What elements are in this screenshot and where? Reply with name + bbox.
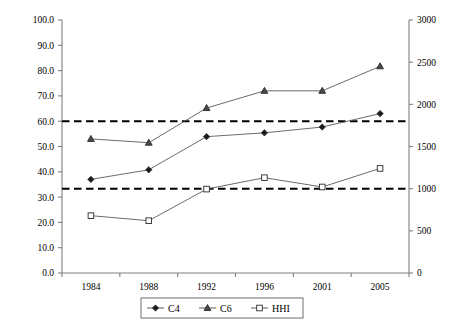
right-axis-tick-label: 2000 (417, 100, 436, 110)
left-axis-tick-label: 60.0 (37, 117, 54, 127)
chart-legend[interactable]: C4C6HHI (141, 298, 303, 318)
left-axis-tick-label: 100.0 (33, 15, 55, 25)
series-c6-point-triangle-marker (319, 87, 326, 93)
left-axis-tick-label: 0.0 (42, 268, 54, 278)
right-axis-tick-label: 1000 (417, 184, 436, 194)
chart-container: 0.010.020.030.040.050.060.070.080.090.01… (0, 0, 455, 328)
legend-label-hhi: HHI (272, 303, 290, 314)
category-axis-label: 1992 (197, 282, 216, 292)
category-axis-label: 2005 (371, 282, 390, 292)
left-value-axis: 0.010.020.030.040.050.060.070.080.090.01… (33, 15, 62, 278)
series-c4-point-diamond-marker (319, 124, 325, 130)
legend-hhi-square-marker (257, 305, 263, 311)
left-axis-tick-label: 80.0 (37, 66, 54, 76)
series-line-c4 (91, 114, 380, 180)
series-c6-point-triangle-marker (261, 87, 268, 93)
data-series-group (88, 63, 384, 224)
series-c4-point-diamond-marker (261, 130, 267, 136)
series-c4-point-diamond-marker (377, 111, 383, 117)
left-axis-tick-label: 70.0 (37, 91, 54, 101)
concentration-line-chart: 0.010.020.030.040.050.060.070.080.090.01… (0, 0, 455, 328)
right-axis-tick-label: 500 (417, 226, 432, 236)
series-hhi-point-square-marker (146, 218, 152, 224)
left-axis-tick-label: 40.0 (37, 167, 54, 177)
series-hhi-point-square-marker (204, 186, 210, 192)
right-axis-tick-label: 0 (417, 268, 422, 278)
series-hhi-point-square-marker (377, 166, 383, 172)
left-axis-tick-label: 30.0 (37, 193, 54, 203)
right-axis-tick-label: 1500 (417, 142, 436, 152)
left-axis-tick-label: 20.0 (37, 218, 54, 228)
right-axis-tick-label: 3000 (417, 15, 436, 25)
series-hhi-point-square-marker (88, 213, 94, 219)
series-c4-point-diamond-marker (203, 134, 209, 140)
reference-lines (62, 121, 409, 189)
series-line-c6 (91, 66, 380, 142)
series-line-hhi (91, 168, 380, 220)
series-c4-point-diamond-marker (88, 176, 94, 182)
left-axis-tick-label: 50.0 (37, 142, 54, 152)
legend-label-c6: C6 (220, 303, 232, 314)
category-axis-label: 2001 (313, 282, 332, 292)
series-c4-point-diamond-marker (146, 167, 152, 173)
series-c6-point-triangle-marker (377, 63, 384, 69)
series-c6-point-triangle-marker (88, 135, 95, 141)
legend-label-c4: C4 (168, 303, 180, 314)
series-hhi (88, 166, 383, 224)
right-value-axis: 050010001500200025003000 (409, 15, 436, 278)
series-c6 (88, 63, 384, 145)
category-axis: 198419881992199620012005 (62, 273, 409, 292)
series-hhi-point-square-marker (319, 184, 325, 190)
left-axis-tick-label: 10.0 (37, 243, 54, 253)
left-axis-tick-label: 90.0 (37, 41, 54, 51)
right-axis-tick-label: 2500 (417, 58, 436, 68)
category-axis-label: 1996 (255, 282, 274, 292)
series-hhi-point-square-marker (262, 175, 268, 181)
category-axis-label: 1984 (81, 282, 100, 292)
category-axis-label: 1988 (139, 282, 158, 292)
